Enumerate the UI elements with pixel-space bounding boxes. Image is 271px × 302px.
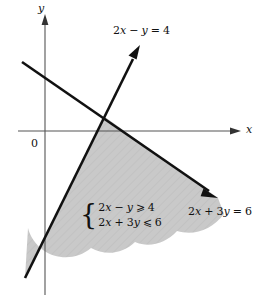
y-axis-label: y xyxy=(38,3,44,14)
row2-coef2: 3 xyxy=(127,216,134,229)
row2-var-x: x xyxy=(105,216,111,229)
line1-var-x: x xyxy=(120,24,126,37)
row1-var-y: y xyxy=(127,201,133,214)
line1-var-y: y xyxy=(141,24,147,37)
line1-rhs: 4 xyxy=(163,24,170,37)
line1-operator: − xyxy=(129,24,138,37)
shaded-solution-region xyxy=(25,117,224,278)
row2-var-y: y xyxy=(134,216,140,229)
line2-rhs: 6 xyxy=(245,205,252,218)
row1-rhs: 4 xyxy=(148,201,155,214)
graph-canvas xyxy=(0,0,271,302)
line1-coef: 2 xyxy=(113,24,120,37)
origin-label: 0 xyxy=(31,138,38,149)
row1-operator: − xyxy=(114,201,123,214)
line1-equation-label: 2x−y=4 xyxy=(113,25,170,36)
x-axis xyxy=(18,128,241,135)
line2-var-x: x xyxy=(195,205,201,218)
line1-equals: = xyxy=(151,24,160,37)
y-axis xyxy=(42,14,49,295)
row2-relation: ⩽ xyxy=(143,216,152,229)
line2-coef: 2 xyxy=(188,205,195,218)
system-rows: 2x−y⩾4 2x+3y⩽6 xyxy=(98,201,162,229)
system-brace: { xyxy=(80,204,97,226)
row2-rhs: 6 xyxy=(155,216,162,229)
line2-operator: + xyxy=(204,205,213,218)
line2-equals: = xyxy=(233,205,242,218)
line2-equation-label: 2x+3y=6 xyxy=(188,206,252,217)
row2-operator: + xyxy=(114,216,123,229)
row1-relation: ⩾ xyxy=(136,201,145,214)
inequality-row-1: 2x−y⩾4 xyxy=(98,201,162,214)
inequality-row-2: 2x+3y⩽6 xyxy=(98,216,162,229)
inequality-graph-figure: y x 0 2x−y=4 2x+3y=6 { 2x−y⩾4 2x+3y⩽6 xyxy=(0,0,271,302)
system-of-inequalities: { 2x−y⩾4 2x+3y⩽6 xyxy=(80,201,162,229)
line2-var-y: y xyxy=(223,205,229,218)
x-axis-label: x xyxy=(246,124,252,135)
row1-var-x: x xyxy=(105,201,111,214)
